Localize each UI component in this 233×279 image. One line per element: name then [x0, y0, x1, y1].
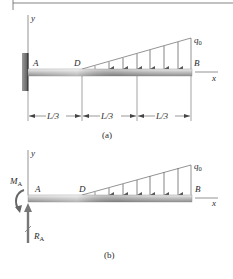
- diagram-b: y q0 A D B x MA: [9, 148, 218, 260]
- caption-a: (a): [102, 130, 112, 140]
- y-axis-label-b: y: [30, 148, 35, 158]
- moment-arrow-icon: [15, 190, 24, 213]
- caption-b: (b): [104, 250, 115, 260]
- x-axis-label-a: x: [211, 73, 216, 83]
- point-A-label-a: A: [32, 58, 39, 68]
- point-B-label-b: B: [195, 184, 201, 194]
- y-axis-label-a: y: [30, 13, 35, 23]
- x-axis-label-b: x: [211, 198, 216, 208]
- reaction-label: RA: [33, 231, 45, 242]
- moment-label: MA: [9, 176, 23, 187]
- point-D-label-a: D: [73, 58, 81, 68]
- load-label-b: q0: [194, 161, 202, 172]
- load-label-a: q0: [194, 35, 202, 46]
- distributed-load-a: [82, 38, 191, 69]
- dimension-label-3: L/3: [155, 111, 169, 121]
- point-D-label-b: D: [78, 184, 86, 194]
- beam-figure: y q0 A D B x: [0, 0, 233, 279]
- reaction-arrow-icon: [24, 203, 32, 243]
- distributed-load-b: [82, 165, 191, 195]
- point-A-label-b: A: [34, 184, 41, 194]
- fixed-wall-support: [22, 53, 28, 91]
- point-B-label-a: B: [194, 58, 200, 68]
- top-rule: [13, 0, 233, 10]
- diagram-a: y q0 A D B x: [22, 13, 218, 140]
- dimension-label-1: L/3: [46, 111, 60, 121]
- dimension-label-2: L/3: [100, 111, 114, 121]
